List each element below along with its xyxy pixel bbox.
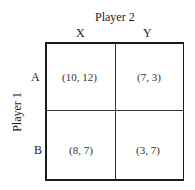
column-header-x: X: [76, 27, 85, 39]
column-header-y: Y: [143, 27, 152, 39]
payoff-cell-b-x: (8, 7): [69, 145, 93, 156]
column-player-label: Player 2: [95, 11, 135, 23]
payoff-cell-b-y: (3, 7): [136, 145, 160, 156]
column-divider: [115, 44, 116, 179]
payoff-cell-a-y: (7, 3): [137, 72, 161, 83]
row-header-b: B: [34, 144, 42, 156]
row-divider: [47, 110, 183, 111]
payoff-cell-a-x: (10, 12): [62, 72, 97, 83]
row-player-label: Player 1: [11, 92, 23, 132]
payoff-matrix: [45, 42, 184, 181]
row-header-a: A: [31, 71, 40, 83]
